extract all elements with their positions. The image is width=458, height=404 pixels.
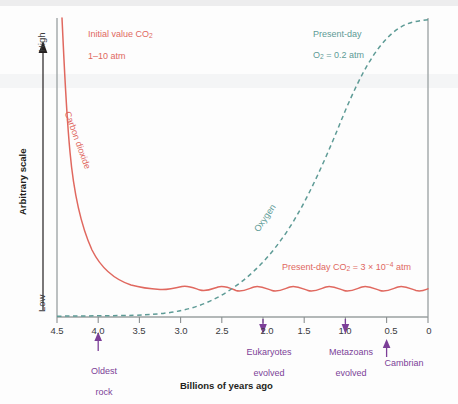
x-axis-ticks [57, 317, 428, 323]
event-label-eukaryotes-line2: evolved [253, 368, 284, 378]
event-arrow-cambrian [383, 339, 391, 357]
y-direction-arrow [39, 41, 48, 310]
x-tick-label-4-0: 4.0 [86, 325, 110, 336]
x-tick-label-0: 0 [417, 325, 441, 336]
event-label-oldest-rock-line1: Oldest [91, 366, 117, 376]
event-label-cambrian: Cambrian [372, 358, 436, 369]
annotation-co2-initial-line1: Initial value CO [88, 29, 149, 39]
x-tick-label-3-0: 3.0 [169, 325, 193, 336]
event-label-metazoans-line1: Metazoans [329, 347, 373, 357]
annotation-co2-initial-line2: 1–10 atm [88, 51, 126, 61]
x-tick-label-1-0: 1.0 [333, 325, 357, 336]
annotation-co2-present: Present-day CO2 = 3 × 10−4 atm [272, 250, 411, 283]
annotation-co2-present-post: atm [393, 261, 411, 271]
y-axis-low-label: Low [36, 295, 47, 312]
y-axis-title: Arbitrary scale [17, 148, 28, 215]
event-label-metazoans-line2: evolved [335, 368, 366, 378]
annotation-co2-initial-subscript: 2 [149, 32, 153, 39]
x-tick-label-3-5: 3.5 [127, 325, 151, 336]
x-tick-label-2-0: 2.0 [255, 325, 279, 336]
x-tick-label-4-5: 4.5 [45, 325, 69, 336]
event-label-oldest-rock-line2: rock [96, 387, 113, 397]
annotation-co2-present-pre: Present-day CO [282, 261, 347, 271]
annotation-o2-present-symbol: O [313, 50, 320, 60]
annotation-o2-present-value: = 0.2 atm [324, 50, 364, 60]
x-tick-label-2-5: 2.5 [210, 325, 234, 336]
event-label-oldest-rock: Oldest rock [66, 355, 132, 404]
annotation-o2-present-line1: Present-day [313, 29, 362, 39]
y-axis-high-label: High [36, 32, 47, 52]
figure-container: Arbitrary scale High Low 4.5 4.0 3.5 3.0… [0, 0, 458, 404]
annotation-co2-present-mid: = 3 × 10 [350, 261, 386, 271]
annotation-o2-present: Present-day O2 = 0.2 atm [303, 18, 364, 72]
x-tick-label-1-5: 1.5 [292, 325, 316, 336]
event-label-eukaryotes: Eukaryotes evolved [228, 336, 300, 389]
x-tick-label-0-5: 0.5 [379, 325, 403, 336]
annotation-co2-initial: Initial value CO2 1–10 atm [78, 18, 153, 72]
event-label-eukaryotes-line1: Eukaryotes [246, 347, 291, 357]
